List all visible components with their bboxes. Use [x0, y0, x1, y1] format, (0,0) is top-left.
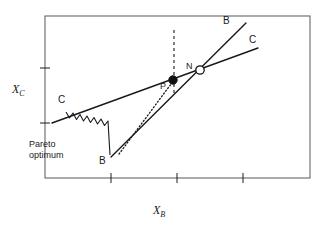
x-axis-label: XB	[153, 203, 165, 219]
curve-label-b-top: B	[223, 16, 230, 26]
pareto-optimum-annotation: Pareto optimum	[29, 139, 64, 161]
curve-c-line	[52, 48, 258, 123]
curve-b-dotted-line	[119, 80, 174, 154]
plot-frame	[45, 16, 310, 178]
curve-label-c-left: C	[58, 95, 65, 105]
curve-label-b-bottom: B	[99, 156, 106, 166]
pareto-wavy-connector	[66, 112, 110, 155]
figure-container: XC XB C B B C P N Pareto optimum	[0, 0, 325, 227]
plot-canvas	[0, 0, 325, 227]
point-label-n: N	[186, 62, 193, 71]
curve-label-c-right: C	[249, 35, 256, 45]
y-axis-label: XC	[12, 82, 25, 98]
marker-point-n	[196, 66, 204, 74]
point-label-p: P	[160, 82, 166, 91]
marker-point-p	[169, 76, 177, 84]
x-axis-label-subscript: B	[160, 210, 165, 219]
y-axis-label-subscript: C	[19, 89, 24, 98]
